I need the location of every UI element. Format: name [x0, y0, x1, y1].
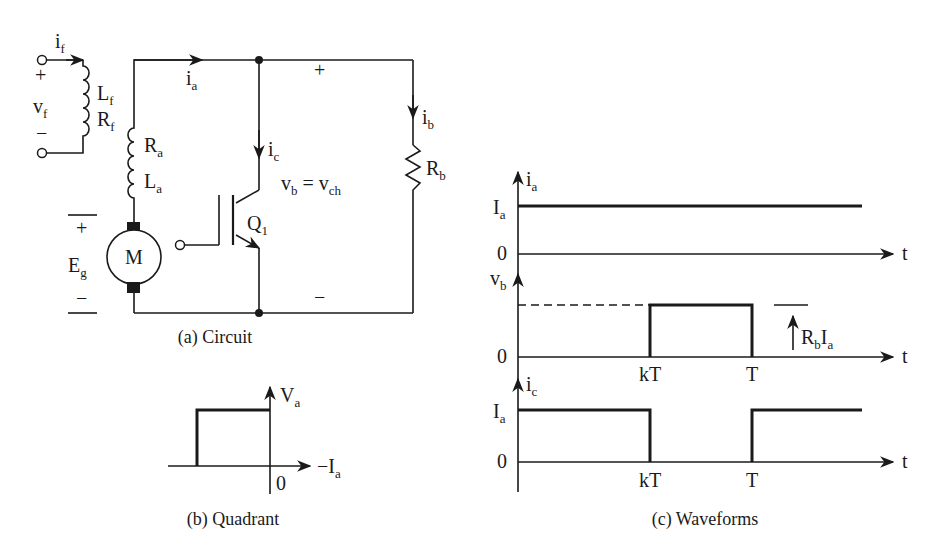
ia-waveform: ia Ia 0 t	[493, 168, 908, 264]
motor-brush-bottom	[127, 282, 140, 293]
collector-current-label: ic	[268, 138, 280, 164]
vb-t-label: t	[902, 345, 908, 367]
armature-current-label: ia	[186, 67, 198, 93]
field-voltage-label: vf	[33, 95, 48, 121]
dc-chopper-regenerative-braking-diagram: if + vf − Lf Rf ia Ra La M + Eg −	[0, 0, 943, 559]
armature-resistor-label: Ra	[144, 134, 163, 160]
ic-pulse-1	[518, 410, 650, 462]
load-resistor-label: Rb	[426, 157, 446, 183]
ia-t-label: t	[902, 242, 908, 264]
emf-minus-sign: −	[76, 287, 87, 309]
ia-level-label: Ia	[493, 196, 506, 222]
vb-axis-label: vb	[490, 267, 507, 293]
ic-pulse-2	[752, 410, 862, 462]
field-terminal-bottom	[38, 149, 47, 158]
chopper-voltage-equation: vb = vch	[281, 172, 342, 198]
ic-axis-label: ic	[526, 373, 538, 399]
switch-label: Q1	[247, 212, 268, 238]
resistor-icon	[406, 145, 420, 313]
caption-quadrant: (b) Quadrant	[187, 509, 279, 530]
vb-T-tick: T	[746, 363, 758, 385]
load-current-label: ib	[422, 106, 434, 132]
quadrant-diagram: Va −Ia 0 (b) Quadrant	[168, 384, 341, 530]
ic-waveform: ic Ia 0 t kT T	[493, 373, 908, 491]
field-resistor-label: Rf	[97, 108, 115, 134]
vb-amplitude-label: RbIa	[801, 326, 834, 352]
field-minus-sign: −	[36, 122, 47, 144]
load-plus-sign: +	[314, 59, 325, 81]
waveforms-chart: ia Ia 0 t vb 0 t kT T RbIa ic Ia	[490, 168, 908, 530]
ic-level-label: Ia	[493, 400, 506, 426]
field-winding: if + vf − Lf Rf	[33, 30, 115, 158]
quadrant-x-label: −Ia	[317, 455, 341, 481]
quadrant-y-label: Va	[280, 384, 300, 410]
ic-T-tick: T	[746, 469, 758, 491]
quadrant-origin-label: 0	[276, 472, 286, 494]
load-minus-sign: −	[314, 286, 325, 308]
emf-plus-sign: +	[76, 217, 87, 239]
caption-circuit: (a) Circuit	[178, 327, 252, 348]
field-inductor-label: Lf	[97, 82, 114, 108]
ia-zero-label: 0	[497, 242, 507, 264]
ia-axis-label: ia	[526, 168, 538, 194]
vb-pulse	[650, 305, 752, 357]
ic-kT-tick: kT	[639, 469, 661, 491]
ic-t-label: t	[902, 450, 908, 472]
vb-kT-tick: kT	[639, 363, 661, 385]
ic-zero-label: 0	[497, 450, 507, 472]
quadrant-operating-region	[197, 410, 270, 466]
field-plus-sign: +	[35, 64, 46, 86]
braking-resistor: ib Rb	[406, 60, 446, 313]
vb-zero-label: 0	[497, 345, 507, 367]
igbt-emitter-arrow	[236, 235, 259, 248]
motor-label: M	[125, 246, 143, 268]
circuit-diagram: if + vf − Lf Rf ia Ra La M + Eg −	[33, 30, 446, 348]
emf-label: Eg	[68, 254, 87, 280]
armature-inductor-label: La	[144, 170, 162, 196]
caption-waveforms: (c) Waveforms	[652, 509, 759, 530]
field-inductor-icon	[46, 60, 89, 153]
field-current-label: if	[55, 30, 66, 56]
igbt-switch-q1: ic Q1	[176, 60, 280, 313]
vb-waveform: vb 0 t kT T RbIa	[490, 267, 908, 385]
gate-terminal	[176, 241, 185, 250]
